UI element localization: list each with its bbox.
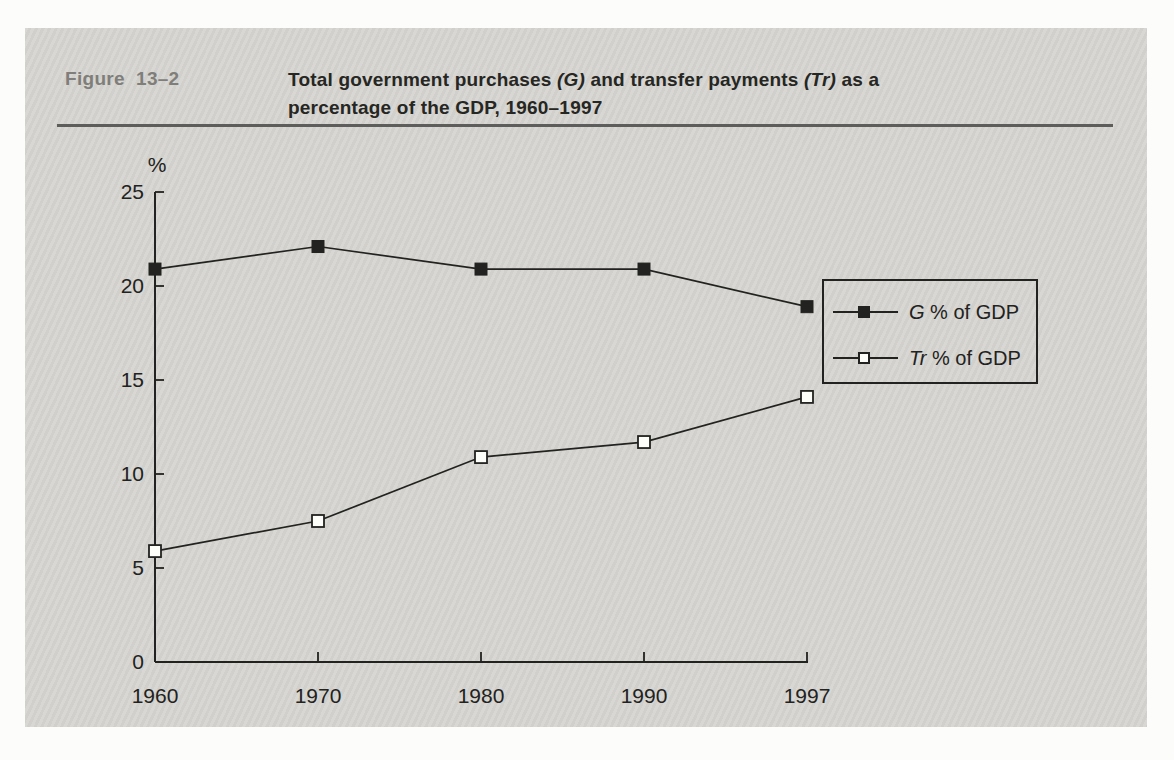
legend-label-g-symbol: G <box>909 301 925 323</box>
filled-square-datapoint <box>149 263 161 275</box>
page: Figure 13–2 Total government purchases (… <box>0 0 1174 760</box>
legend-item-tr: Tr % of GDP <box>824 335 1036 381</box>
legend-item-g: G % of GDP <box>824 289 1036 335</box>
filled-square-datapoint <box>638 263 650 275</box>
open-square-datapoint <box>475 451 487 463</box>
legend-label-tr-symbol: Tr <box>909 347 926 369</box>
open-square-datapoint <box>312 515 324 527</box>
open-square-datapoint <box>638 436 650 448</box>
x-tick-label: 1997 <box>784 684 831 707</box>
legend-line-icon <box>833 311 898 313</box>
legend-label-g: G % of GDP <box>909 301 1019 324</box>
series-line-g <box>155 247 807 307</box>
y-tick-label: 20 <box>121 274 144 297</box>
filled-square-datapoint <box>475 263 487 275</box>
legend-line-icon <box>833 357 898 359</box>
open-square-marker-icon <box>858 352 870 364</box>
series-line-tr <box>155 397 807 551</box>
legend-label-tr-rest: % of GDP <box>926 347 1020 369</box>
legend-label-tr: Tr % of GDP <box>909 347 1021 370</box>
filled-square-datapoint <box>801 301 813 313</box>
x-tick-label: 1990 <box>621 684 668 707</box>
y-axis-unit-label: % <box>148 153 167 176</box>
x-tick-label: 1970 <box>295 684 342 707</box>
figure-card: Figure 13–2 Total government purchases (… <box>25 28 1147 727</box>
y-tick-label: 15 <box>121 368 144 391</box>
chart-legend: G % of GDP Tr % of GDP <box>822 279 1038 384</box>
y-tick-label: 25 <box>121 180 144 203</box>
y-tick-label: 0 <box>132 650 144 673</box>
filled-square-marker-icon <box>858 306 870 318</box>
x-tick-label: 1980 <box>458 684 505 707</box>
filled-square-datapoint <box>312 241 324 253</box>
y-tick-label: 5 <box>132 556 144 579</box>
legend-label-g-rest: % of GDP <box>925 301 1019 323</box>
open-square-datapoint <box>801 391 813 403</box>
open-square-datapoint <box>149 545 161 557</box>
x-tick-label: 1960 <box>132 684 179 707</box>
y-tick-label: 10 <box>121 462 144 485</box>
